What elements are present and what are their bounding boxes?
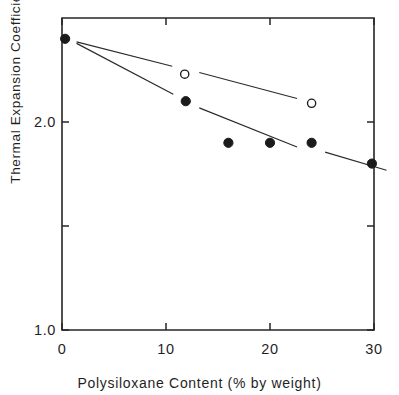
y-axis-label-prefix: Thermal Expansion Coefficient (×10 [8,0,23,183]
trend-line-segment [199,72,297,98]
x-tick-label: 0 [58,341,67,357]
y-axis-label: Thermal Expansion Coefficient (×10-5/°C … [5,0,23,198]
data-point-open [308,99,316,107]
x-tick-label: 30 [365,341,382,357]
data-point-open [181,70,189,78]
trend-line-segment [325,152,386,170]
plot-area [0,0,399,395]
trend-lines [77,42,387,170]
x-tick-label: 20 [261,341,278,357]
x-tick-label: 10 [157,341,174,357]
x-axis-label: Polysiloxane Content (% by weight) [0,375,399,391]
axis-frame-path [62,18,374,330]
data-markers [61,34,377,168]
y-tick-label: 1.0 [14,322,56,338]
trend-line-segment [77,43,174,94]
data-point-filled [181,97,190,106]
tick-marks [62,18,374,330]
data-point-filled [367,159,376,168]
data-point-filled [265,138,274,147]
trend-line-segment [77,42,173,66]
data-point-filled [307,138,316,147]
data-point-filled [61,34,70,43]
data-point-filled [224,138,233,147]
trend-line-segment [199,108,297,147]
axis-frame [62,18,374,330]
chart-figure: 0102030 1.02.0 Polysiloxane Content (% b… [0,0,399,395]
